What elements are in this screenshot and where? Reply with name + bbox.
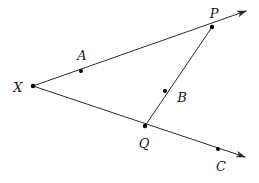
point-label-B: B <box>177 91 187 104</box>
point-label-C: C <box>216 160 226 173</box>
point-dot-A <box>79 69 83 73</box>
point-dot-C <box>216 147 220 151</box>
ray-XP <box>33 11 246 86</box>
point-dot-Q <box>143 124 147 128</box>
geometry-canvas <box>0 0 259 183</box>
point-dot-P <box>210 25 214 29</box>
point-label-P: P <box>210 7 219 20</box>
point-dot-B <box>163 89 167 93</box>
point-dot-X <box>31 84 35 88</box>
point-label-A: A <box>77 49 86 62</box>
point-label-X: X <box>13 81 22 94</box>
point-label-Q: Q <box>139 137 150 150</box>
geometry-figure: X A P B Q C <box>0 0 259 183</box>
segment-PQ <box>145 27 212 126</box>
